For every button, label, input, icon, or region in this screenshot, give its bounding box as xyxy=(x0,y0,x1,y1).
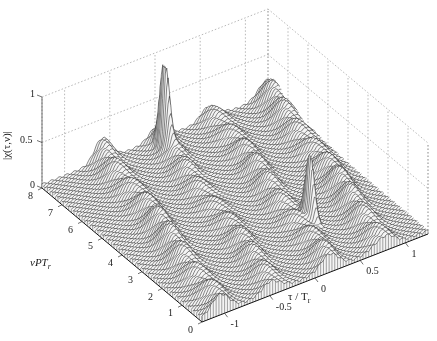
z-tick-label: 1 xyxy=(30,89,35,99)
y-tick-label: 0 xyxy=(188,325,193,335)
z-tick-label: 0 xyxy=(30,180,35,190)
x-tick-label: -1 xyxy=(231,319,239,329)
x-axis-label: τ / Tr xyxy=(288,290,310,305)
y-axis-label: νPTr xyxy=(30,256,51,271)
x-tick-label: 0.5 xyxy=(366,266,379,276)
y-tick-label: 5 xyxy=(88,241,93,251)
y-tick-label: 6 xyxy=(68,225,73,235)
z-axis-label: |χ(τ,ν)| xyxy=(0,131,12,160)
x-tick-label: 0 xyxy=(321,284,326,294)
y-tick-label: 1 xyxy=(168,308,173,318)
y-tick-label: 7 xyxy=(48,208,53,218)
x-tick-label: 1 xyxy=(411,249,416,259)
z-tick-label: 0.5 xyxy=(20,135,33,145)
y-tick-label: 3 xyxy=(128,275,133,285)
ambiguity-surface-plot xyxy=(0,0,437,341)
y-tick-label: 8 xyxy=(28,191,33,201)
y-tick-label: 2 xyxy=(148,292,153,302)
y-tick-label: 4 xyxy=(108,258,113,268)
